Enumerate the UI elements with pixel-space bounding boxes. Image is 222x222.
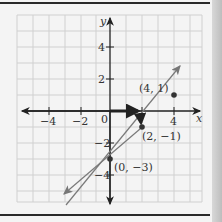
point-label-2-neg1: (2, −1) xyxy=(142,130,181,143)
point-label-4-1: (4, 1) xyxy=(139,82,169,95)
x-tick-label-neg2: −2 xyxy=(72,115,88,128)
x-tick-label-neg4: −4 xyxy=(40,115,56,128)
point-0-neg3 xyxy=(107,156,113,162)
rise-arrow xyxy=(140,113,141,123)
x-axis-label: x xyxy=(196,112,203,125)
point-label-0-neg3: (0, −3) xyxy=(114,161,153,174)
x-tick-label-4: 4 xyxy=(170,115,177,128)
y-tick-label-2: 2 xyxy=(98,73,105,86)
y-tick-label-neg2: −2 xyxy=(94,137,110,150)
y-tick-label-4: 4 xyxy=(98,41,105,54)
point-2-neg1 xyxy=(139,124,145,130)
y-axis-label: y xyxy=(99,15,107,28)
y-tick-label-neg4: −4 xyxy=(94,169,110,182)
coordinate-plane: y x 0 −4 −2 4 4 2 −2 −4 (4, 1) (2, −1) (… xyxy=(0,0,222,222)
origin-label: 0 xyxy=(101,113,108,126)
point-4-1 xyxy=(171,92,177,98)
